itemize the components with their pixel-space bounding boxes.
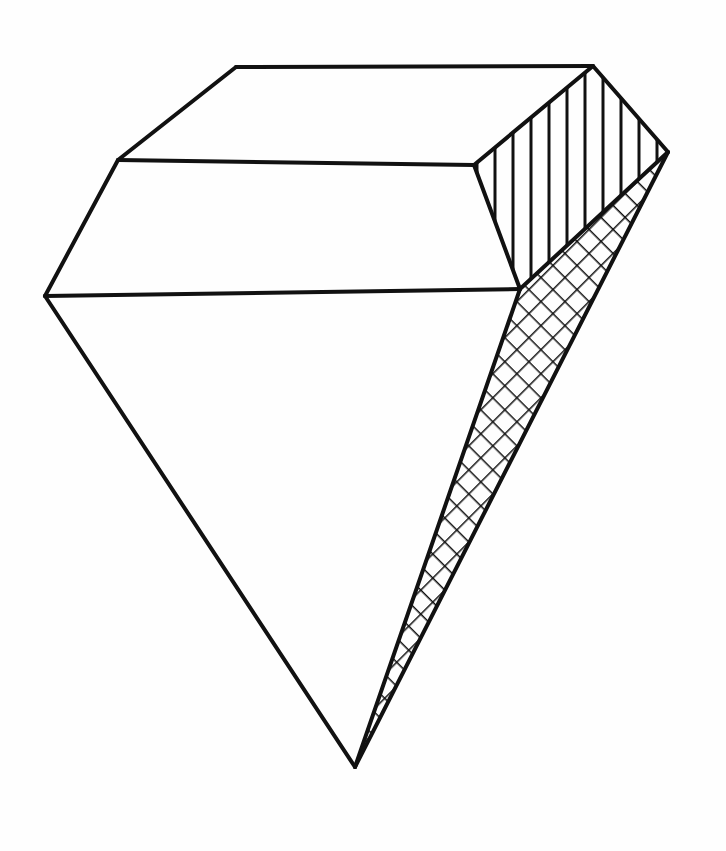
girdle-line (45, 289, 520, 296)
illustration-canvas: diamond (0, 0, 726, 851)
table-edge (236, 66, 593, 67)
diamond-drawing (0, 0, 726, 851)
girdle-upper-line (118, 160, 474, 165)
